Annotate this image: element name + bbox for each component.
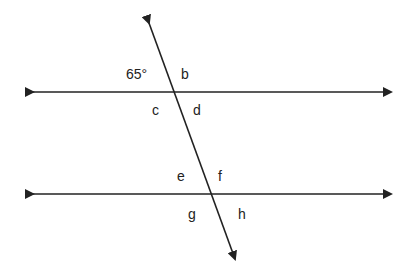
given-angle-label: 65° bbox=[126, 67, 147, 81]
angle-c-label: c bbox=[152, 103, 159, 117]
angle-g-label: g bbox=[188, 207, 196, 221]
diagram-lines bbox=[0, 0, 419, 278]
transversal-line bbox=[149, 23, 235, 259]
angle-b-label: b bbox=[181, 67, 189, 81]
angle-h-label: h bbox=[238, 207, 246, 221]
angle-d-label: d bbox=[193, 103, 201, 117]
angle-e-label: e bbox=[177, 169, 185, 183]
diagram-canvas: 65° b c d e f g h bbox=[0, 0, 419, 278]
angle-f-label: f bbox=[218, 169, 222, 183]
